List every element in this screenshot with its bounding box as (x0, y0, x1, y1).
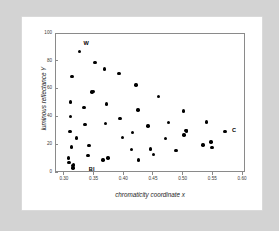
data-point (67, 161, 70, 164)
data-point (86, 154, 89, 157)
x-tick-mark (212, 172, 213, 175)
y-tick-mark (55, 60, 58, 61)
x-tick-mark (152, 172, 153, 175)
y-tick-mark (55, 88, 58, 89)
y-tick-label: 100 (26, 31, 52, 36)
y-tick-mark (55, 33, 58, 34)
data-point (149, 147, 152, 150)
x-tick-mark (182, 172, 183, 175)
x-tick-label: 0.35 (89, 177, 98, 182)
data-point (182, 109, 185, 112)
x-tick-label: 0.60 (238, 177, 247, 182)
point-annotation: C (232, 128, 236, 134)
data-point (174, 149, 177, 152)
figure-card: 020406080100 0.300.350.400.450.500.550.6… (22, 17, 262, 210)
point-annotation: Bl (89, 167, 95, 173)
data-point (136, 108, 139, 111)
x-axis-title: chromaticity coordinate x (55, 191, 245, 198)
data-point (92, 90, 95, 93)
data-point (93, 61, 96, 64)
data-point (67, 156, 70, 159)
data-point (201, 143, 204, 146)
data-point (101, 158, 104, 161)
x-tick-mark (63, 172, 64, 175)
y-tick-mark (55, 116, 58, 117)
data-point (75, 136, 78, 139)
plot-area (55, 33, 245, 172)
x-tick-mark (123, 172, 124, 175)
x-tick-label: 0.55 (208, 177, 217, 182)
scatter-plot-figure: 020406080100 0.300.350.400.450.500.550.6… (22, 17, 262, 210)
data-point (117, 72, 120, 75)
x-tick-label: 0.45 (148, 177, 157, 182)
data-point (105, 102, 108, 105)
data-point (70, 145, 73, 148)
x-tick-mark (242, 172, 243, 175)
x-tick-label: 0.30 (59, 177, 68, 182)
data-point (182, 133, 185, 136)
y-tick-label: 0 (26, 170, 52, 175)
data-point (71, 166, 74, 169)
data-point (118, 117, 121, 120)
data-point (185, 129, 188, 132)
data-point (82, 106, 85, 109)
data-point (146, 124, 149, 127)
data-point (209, 140, 212, 143)
data-point (134, 83, 137, 86)
data-point (106, 156, 109, 159)
data-point (121, 136, 124, 139)
point-annotation: W (84, 41, 89, 47)
x-tick-label: 0.50 (178, 177, 187, 182)
figure-background: 020406080100 0.300.350.400.450.500.550.6… (0, 0, 279, 231)
data-point (137, 158, 140, 161)
y-tick-mark (55, 172, 58, 173)
y-axis-title: luminous reflectance Y (40, 39, 47, 159)
y-tick-mark (55, 144, 58, 145)
x-tick-label: 0.40 (119, 177, 128, 182)
